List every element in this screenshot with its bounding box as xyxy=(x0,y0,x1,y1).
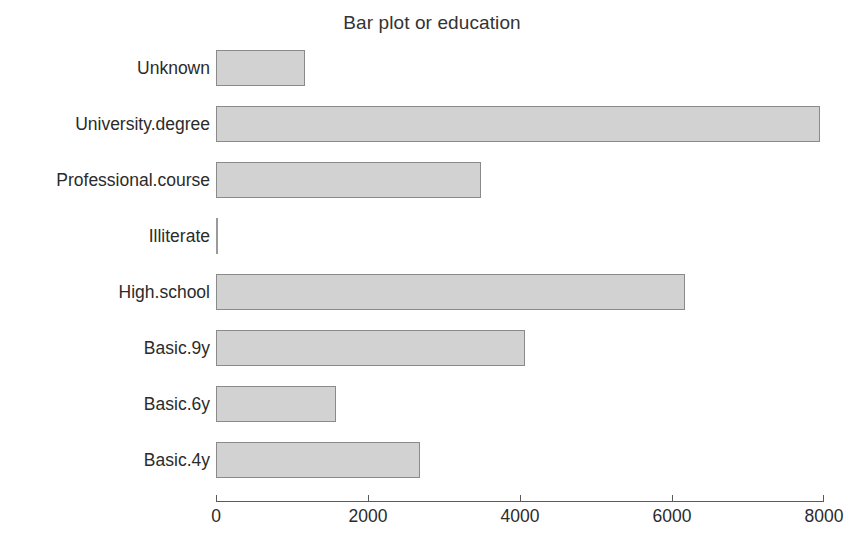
bar-basic-4y xyxy=(216,442,420,478)
bar-row: Illiterate xyxy=(0,208,864,264)
bar-row: Basic.9y xyxy=(0,320,864,376)
x-tick-label-0: 0 xyxy=(211,506,221,527)
x-tick-mark xyxy=(368,495,369,502)
category-label-university-degree: University.degree xyxy=(75,114,210,135)
category-label-high-school: High.school xyxy=(119,282,210,303)
x-tick-label-4000: 4000 xyxy=(501,506,540,527)
bar-row: Unknown xyxy=(0,40,864,96)
plot-area: UnknownUniversity.degreeProfessional.cou… xyxy=(0,40,864,495)
bar-row: Professional.course xyxy=(0,152,864,208)
category-label-basic-4y: Basic.4y xyxy=(144,450,210,471)
x-tick-mark xyxy=(672,495,673,502)
category-label-unknown: Unknown xyxy=(137,58,210,79)
category-label-professional-course: Professional.course xyxy=(56,170,210,191)
bar-row: Basic.6y xyxy=(0,376,864,432)
x-tick-label-2000: 2000 xyxy=(349,506,388,527)
x-tick-mark xyxy=(823,495,824,502)
bar-basic-6y xyxy=(216,386,336,422)
bar-chart-figure: Bar plot or education UnknownUniversity.… xyxy=(0,0,864,550)
x-tick-mark xyxy=(520,495,521,502)
bar-unknown xyxy=(216,50,305,86)
bar-high-school xyxy=(216,274,685,310)
x-axis: 02000400060008000 xyxy=(0,495,864,550)
x-tick-label-8000: 8000 xyxy=(805,506,844,527)
bar-row: University.degree xyxy=(0,96,864,152)
bar-row: Basic.4y xyxy=(0,432,864,488)
bar-illiterate xyxy=(216,218,218,254)
x-tick-label-6000: 6000 xyxy=(653,506,692,527)
bar-basic-9y xyxy=(216,330,525,366)
category-label-basic-6y: Basic.6y xyxy=(144,394,210,415)
bar-row: High.school xyxy=(0,264,864,320)
bar-professional-course xyxy=(216,162,481,198)
x-tick-mark xyxy=(216,495,217,502)
category-label-illiterate: Illiterate xyxy=(149,226,210,247)
bar-university-degree xyxy=(216,106,820,142)
category-label-basic-9y: Basic.9y xyxy=(144,338,210,359)
chart-title: Bar plot or education xyxy=(0,12,864,34)
